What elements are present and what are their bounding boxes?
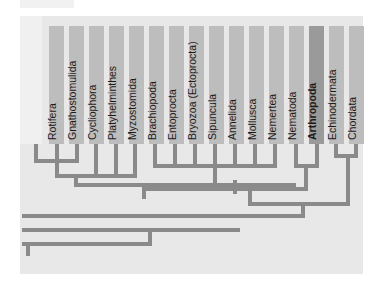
header-tab [20, 0, 74, 8]
taxon-label: Arthropoda [306, 83, 318, 140]
branch [142, 187, 146, 199]
taxon-column: Mollusca [249, 26, 264, 144]
taxon-label: Platyhelminthes [106, 66, 118, 140]
taxon-label: Nemertea [266, 94, 278, 140]
branch [55, 144, 59, 178]
taxon-column: Nemertea [269, 26, 284, 144]
taxon-column: Echinodermata [329, 26, 344, 144]
taxon-label: Brachiopoda [146, 81, 158, 140]
branch [148, 228, 152, 246]
branch [22, 242, 152, 246]
branch [346, 154, 350, 206]
branch [22, 214, 305, 218]
taxon-column: Brachiopoda [149, 26, 164, 144]
taxon-label: Cycliophora [86, 85, 98, 140]
taxon-label: Myzostomida [126, 78, 138, 140]
branch [94, 144, 98, 178]
taxon-column: Cycliophora [89, 26, 104, 144]
taxon-column: Rotifera [49, 26, 64, 144]
taxon-label: Sipuncula [206, 94, 218, 140]
taxon-column: Entoprocta [169, 26, 184, 144]
taxon-column: Myzostomida [129, 26, 144, 144]
branch [248, 187, 252, 206]
taxon-column: Arthropoda [309, 26, 324, 144]
left-strip [20, 16, 42, 144]
taxon-label: Bryozoa (Ectoprocta) [186, 41, 198, 140]
taxon-label: Nematoda [286, 92, 298, 140]
taxon-label: Rotifera [46, 103, 58, 140]
taxon-column: Sipuncula [209, 26, 224, 144]
branch [133, 144, 137, 178]
taxon-label: Annelida [226, 99, 238, 140]
taxon-label: Mollusca [246, 99, 258, 140]
taxon-column: Gnathostomulida [69, 26, 84, 144]
branch [142, 187, 308, 191]
branch [22, 228, 240, 232]
taxon-column: Chordata [349, 26, 364, 144]
taxon-label: Gnathostomulida [66, 61, 78, 140]
branch [114, 144, 118, 178]
taxon-column: Nematoda [289, 26, 304, 144]
taxon-column: Annelida [229, 26, 244, 144]
taxon-label: Entoprocta [166, 89, 178, 140]
taxon-column: Bryozoa (Ectoprocta) [189, 26, 204, 144]
taxon-label: Echinodermata [326, 69, 338, 140]
taxon-column: Platyhelminthes [109, 26, 124, 144]
branch [26, 242, 30, 256]
branch [248, 202, 350, 206]
taxon-label: Chordata [346, 97, 358, 140]
branch [75, 144, 79, 163]
